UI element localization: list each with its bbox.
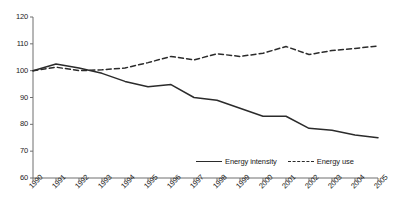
legend-label-energy-use: Energy use (317, 157, 354, 166)
legend-item-energy-use: Energy use (288, 157, 354, 166)
y-axis-tick-label: 120 (2, 12, 28, 21)
y-axis-tick-label: 100 (2, 66, 28, 75)
y-axis-tick-label: 110 (2, 39, 28, 48)
y-axis-tick-label: 80 (2, 119, 28, 128)
energy-chart: 60708090100110120 1990199119921993199419… (0, 0, 394, 217)
chart-legend: Energy intensity Energy use (196, 157, 354, 166)
legend-item-energy-intensity: Energy intensity (196, 157, 277, 166)
series-line-energy-use (33, 46, 378, 71)
y-axis-tick-label: 60 (2, 173, 28, 182)
legend-label-energy-intensity: Energy intensity (225, 157, 277, 166)
chart-series (33, 46, 378, 138)
legend-swatch-solid-line-icon (196, 159, 222, 165)
y-axis-tick-label: 90 (2, 93, 28, 102)
legend-swatch-dashed-line-icon (288, 159, 314, 165)
y-axis-tick-label: 70 (2, 146, 28, 155)
series-line-energy-intensity (33, 64, 378, 138)
